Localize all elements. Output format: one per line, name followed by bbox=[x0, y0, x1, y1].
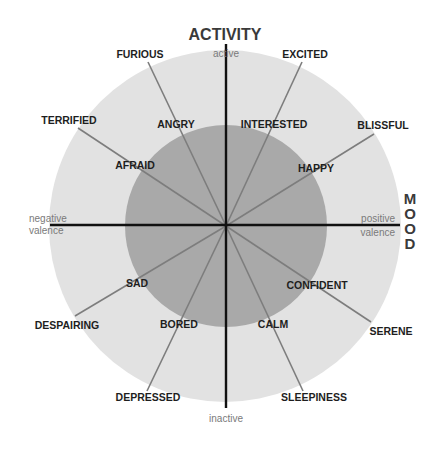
inactive-label: inactive bbox=[209, 413, 243, 424]
emotion-label-terrified: TERRIFIED bbox=[41, 114, 97, 126]
negative-valence-label-line2: valence bbox=[29, 225, 64, 236]
emotion-label-angry: ANGRY bbox=[157, 118, 195, 130]
positive-valence-label-line1: positive bbox=[361, 213, 395, 224]
emotion-label-despairing: DESPAIRING bbox=[35, 319, 100, 331]
mood-letter-4: D bbox=[405, 235, 416, 252]
emotion-label-bored: BORED bbox=[160, 318, 198, 330]
emotion-label-confident: CONFIDENT bbox=[286, 279, 348, 291]
positive-valence-label-line2: valence bbox=[361, 227, 396, 238]
active-label: active bbox=[213, 48, 240, 59]
emotion-label-furious: FURIOUS bbox=[116, 48, 163, 60]
emotion-label-happy: HAPPY bbox=[298, 162, 334, 174]
emotion-label-depressed: DEPRESSED bbox=[116, 391, 181, 403]
emotion-label-sleepiness: SLEEPINESS bbox=[281, 391, 347, 403]
emotion-label-excited: EXCITED bbox=[282, 48, 328, 60]
emotion-label-interested: INTERESTED bbox=[241, 118, 308, 130]
mood-activity-circumplex-diagram: ACTIVITY M O O D active inactive negativ… bbox=[0, 0, 446, 450]
activity-axis-title: ACTIVITY bbox=[189, 26, 262, 43]
emotion-label-calm: CALM bbox=[258, 318, 289, 330]
emotion-label-sad: SAD bbox=[126, 277, 149, 289]
mood-axis-title: M O O D bbox=[404, 190, 417, 252]
emotion-label-serene: SERENE bbox=[369, 325, 412, 337]
emotion-label-afraid: AFRAID bbox=[115, 159, 155, 171]
negative-valence-label-line1: negative bbox=[29, 213, 67, 224]
emotion-label-blissful: BLISSFUL bbox=[357, 119, 409, 131]
